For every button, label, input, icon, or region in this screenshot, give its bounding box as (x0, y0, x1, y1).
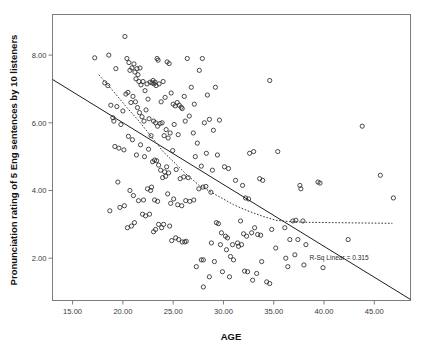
y-tick-label-2.00: 2.00 (32, 254, 47, 263)
x-axis-title: AGE (221, 331, 242, 342)
y-tick-label-4.00: 4.00 (32, 186, 47, 195)
y-axis-title: Pronunciation rating of 5 Eng sentences … (8, 35, 19, 286)
scatter-plot-figure: 15.0020.0025.0030.0035.0040.0045.00 2.00… (0, 0, 427, 349)
chart-background (0, 0, 427, 349)
chart-annotations: R-Sq Linear = 0.315 (309, 254, 369, 262)
r-squared-annotation: R-Sq Linear = 0.315 (309, 254, 369, 262)
chart-canvas: 15.0020.0025.0030.0035.0040.0045.00 2.00… (0, 0, 427, 349)
y-tick-label-8.00: 8.00 (32, 51, 47, 60)
x-tick-label-35.00: 35.00 (264, 307, 283, 316)
x-tick-label-40.00: 40.00 (315, 307, 334, 316)
x-tick-label-20.00: 20.00 (113, 307, 132, 316)
x-tick-label-15.00: 15.00 (63, 307, 82, 316)
x-tick-label-45.00: 45.00 (365, 307, 384, 316)
x-tick-label-25.00: 25.00 (164, 307, 183, 316)
y-tick-label-6.00: 6.00 (32, 119, 47, 128)
x-tick-label-30.00: 30.00 (214, 307, 233, 316)
